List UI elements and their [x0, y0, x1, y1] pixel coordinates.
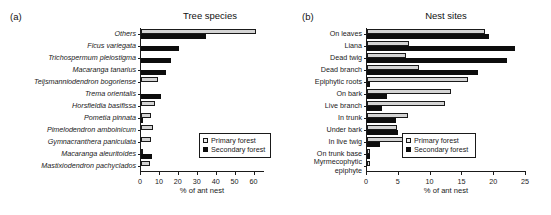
bar-row: Liana: [367, 40, 526, 52]
bar-secondary: [367, 94, 387, 99]
bar-primary: [141, 125, 153, 130]
panel-b-title: Nest sites: [366, 10, 526, 21]
panel-a-tag: (a): [10, 11, 22, 22]
x-tick-label: 20: [481, 177, 505, 186]
bar-row: Trichospermum pleiostigma: [141, 52, 264, 64]
bar-row: Dead branch: [367, 64, 526, 76]
y-tick: [138, 154, 141, 155]
x-tick-label: 60: [242, 177, 266, 186]
x-tick-label: 5: [386, 177, 410, 186]
y-tick: [364, 142, 367, 143]
y-tick: [138, 130, 141, 131]
y-axis-label: Macaranga aleuritoides: [8, 150, 136, 157]
y-axis-label: Pimelodendron amboinicum: [8, 126, 136, 133]
bar-row: Myrmecophyticepiphyte: [367, 160, 526, 172]
bar-row: Trema orientalis: [141, 88, 264, 100]
y-axis-label: On leaves: [292, 30, 362, 37]
y-axis-label: Teijsmanniodendron bogoriense: [8, 78, 136, 85]
y-tick: [364, 46, 367, 47]
y-tick: [138, 82, 141, 83]
bar-row: Others: [141, 28, 264, 40]
legend-a: Primary forest Secondary forest: [199, 133, 271, 158]
y-tick: [138, 58, 141, 59]
bar-row: Macaranga tanarius: [141, 64, 264, 76]
bar-primary: [141, 77, 158, 82]
y-axis-label: Epiphytic roots: [292, 78, 362, 85]
bar-primary: [141, 137, 151, 142]
y-axis-label: Ficus variegata: [8, 42, 136, 49]
bar-row: Live branch: [367, 100, 526, 112]
legend-entry-primary-a: Primary forest: [203, 136, 266, 145]
x-tick: [493, 172, 494, 175]
bar-primary: [367, 77, 468, 82]
y-axis-label: Live branch: [292, 102, 362, 109]
y-tick: [364, 118, 367, 119]
y-axis-label: Dead branch: [292, 66, 362, 73]
legend-entry-secondary-b: Secondary forest: [406, 145, 471, 154]
bar-row: Ficus variegata: [141, 40, 264, 52]
figure-root: (a) Tree species OthersFicus variegataTr…: [0, 0, 551, 215]
legend-label-primary: Primary forest: [211, 137, 256, 144]
y-axis-label: Liana: [292, 42, 362, 49]
bar-secondary: [141, 46, 179, 51]
bar-row: Dead twig: [367, 52, 526, 64]
y-tick: [364, 106, 367, 107]
x-tick: [197, 172, 198, 175]
bar-secondary: [141, 94, 161, 99]
x-tick-label: 0: [354, 177, 378, 186]
x-tick-label: 15: [449, 177, 473, 186]
bar-row: Pometia pinnata: [141, 112, 264, 124]
legend-label-secondary: Secondary forest: [211, 146, 265, 153]
bar-row: Mastixiodendron pachyclados: [141, 160, 264, 172]
y-tick: [364, 130, 367, 131]
bar-primary: [141, 161, 150, 166]
y-tick: [364, 154, 367, 155]
bar-primary: [367, 113, 408, 118]
bar-secondary: [141, 34, 206, 39]
panel-a-title: Tree species: [140, 10, 280, 21]
legend-entry-primary-b: Primary forest: [406, 136, 471, 145]
bar-secondary: [367, 106, 382, 111]
panel-a: (a) Tree species OthersFicus variegataTr…: [0, 0, 282, 215]
y-axis-label: Trema orientalis: [8, 90, 136, 97]
y-tick: [364, 166, 367, 167]
x-tick-label: 25: [513, 177, 537, 186]
bar-row: Teijsmanniodendron bogoriense: [141, 76, 264, 88]
y-axis-label: Others: [8, 30, 136, 37]
y-axis-label: On bark: [292, 90, 362, 97]
bar-secondary: [367, 118, 396, 123]
bar-primary: [367, 137, 405, 142]
y-tick: [364, 34, 367, 35]
bar-primary: [367, 161, 370, 166]
x-tick: [525, 172, 526, 175]
bar-secondary: [367, 34, 489, 39]
y-axis-label: Myrmecophyticepiphyte: [292, 158, 362, 175]
x-tick: [398, 172, 399, 175]
x-tick: [178, 172, 179, 175]
y-axis-label: Dead twig: [292, 54, 362, 61]
bar-secondary: [367, 82, 370, 87]
x-tick: [159, 172, 160, 175]
legend-label-primary: Primary forest: [414, 137, 459, 144]
bar-secondary: [367, 70, 478, 75]
x-tick: [235, 172, 236, 175]
bar-primary: [141, 113, 151, 118]
y-axis-label: Mastixiodendron pachyclados: [8, 162, 136, 169]
bar-primary: [367, 149, 370, 154]
bar-row: Epiphytic roots: [367, 76, 526, 88]
bar-secondary: [141, 154, 152, 159]
x-axis-title-b: % of ant nest: [366, 186, 526, 195]
legend-swatch-secondary-icon: [203, 147, 208, 152]
bar-primary: [367, 125, 397, 130]
legend-swatch-secondary-icon: [406, 147, 411, 152]
bar-secondary: [367, 154, 370, 159]
bar-primary: [367, 53, 406, 58]
y-tick: [138, 106, 141, 107]
legend-b: Primary forest Secondary forest: [402, 133, 476, 158]
bar-row: Horsfieldia basifissa: [141, 100, 264, 112]
x-tick: [366, 172, 367, 175]
legend-swatch-primary-icon: [203, 138, 208, 143]
x-tick: [430, 172, 431, 175]
legend-swatch-primary-icon: [406, 138, 411, 143]
panel-b-tag: (b): [302, 11, 314, 22]
